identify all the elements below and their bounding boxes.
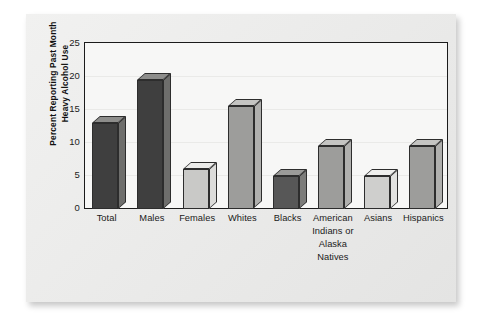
bar-front-face xyxy=(228,106,254,208)
bar-group xyxy=(183,44,217,209)
bar-group xyxy=(137,44,171,209)
bar-group xyxy=(409,44,443,209)
bar-females xyxy=(183,162,217,209)
bar-whites xyxy=(228,99,262,208)
x-axis-tick-labels: TotalMalesFemalesWhitesBlacksAmericanInd… xyxy=(84,212,448,284)
bar-front-face xyxy=(92,123,118,209)
bar-group xyxy=(364,44,398,209)
bar-blacks xyxy=(273,169,307,209)
bar-group xyxy=(273,44,307,209)
bar-side-face xyxy=(209,162,217,209)
bar-hispanics xyxy=(409,139,443,209)
bar-front-face xyxy=(183,169,209,209)
bar-group xyxy=(318,44,352,209)
y-tick-label: 20 xyxy=(58,70,80,81)
bar-front-face xyxy=(318,146,344,209)
x-tick-label-line: Natives xyxy=(303,251,362,264)
x-tick-label-line: Indians or xyxy=(303,225,362,238)
bar-side-face xyxy=(254,99,262,208)
chart-plot-wrapper: Percent Reporting Past Month Heavy Alcoh… xyxy=(26,14,456,302)
y-tick-label: 10 xyxy=(58,136,80,147)
bar-side-face xyxy=(344,139,352,209)
figure-root: Percent Reporting Past Month Heavy Alcoh… xyxy=(0,0,484,331)
x-tick-label: Hispanics xyxy=(394,212,453,225)
bar-front-face xyxy=(273,176,299,209)
bar-side-face xyxy=(390,169,398,209)
bar-group xyxy=(92,44,126,209)
y-tick-label: 0 xyxy=(58,202,80,213)
x-tick-label-line: Alaska xyxy=(303,238,362,251)
y-axis-tick-labels: 0510152025 xyxy=(56,42,80,207)
bar-front-face xyxy=(409,146,435,209)
bar-asians xyxy=(364,169,398,209)
chart-card: Percent Reporting Past Month Heavy Alcoh… xyxy=(26,14,456,302)
bar-front-face xyxy=(364,176,390,209)
x-tick-label-line: Hispanics xyxy=(394,212,453,225)
bar-group xyxy=(228,44,262,209)
bar-side-face xyxy=(299,169,307,209)
bar-american-indians-or-alaska-natives xyxy=(318,139,352,209)
y-tick-label: 15 xyxy=(58,103,80,114)
bar-side-face xyxy=(435,139,443,209)
y-tick-label: 25 xyxy=(58,37,80,48)
bar-total xyxy=(92,116,126,209)
bar-males xyxy=(137,73,171,209)
y-tick-label: 5 xyxy=(58,169,80,180)
bar-series xyxy=(86,44,448,209)
bar-front-face xyxy=(137,80,163,209)
bar-side-face xyxy=(118,116,126,209)
bar-side-face xyxy=(163,73,171,209)
